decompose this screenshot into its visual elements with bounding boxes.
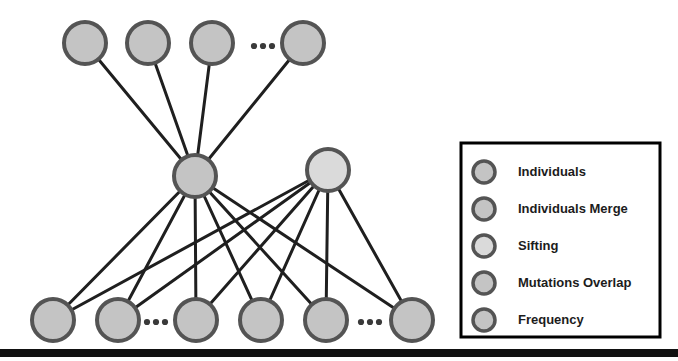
node-b4[interactable] [240, 299, 282, 341]
legend-label: Individuals [518, 164, 586, 179]
bottom-bar [0, 349, 678, 357]
ellipsis-dot-2 [269, 43, 275, 49]
legend-label: Individuals Merge [518, 201, 628, 216]
node-b1[interactable] [32, 299, 74, 341]
ellipsis-dot-1 [260, 43, 266, 49]
ellipsis-dot-0 [251, 43, 257, 49]
ellipsis-dot-2 [162, 319, 168, 325]
ellipsis-dot-0 [144, 319, 150, 325]
figure-canvas: IndividualsIndividuals MergeSiftingMutat… [0, 0, 678, 361]
node-b6[interactable] [391, 299, 433, 341]
ellipsis-dot-1 [367, 319, 373, 325]
legend-label: Sifting [518, 238, 558, 253]
edge-m2-b6 [328, 170, 412, 320]
bottom-bar-rule [0, 349, 678, 357]
node-b3[interactable] [175, 299, 217, 341]
ellipsis-2-1 [358, 319, 382, 325]
legend-marker-icon [473, 161, 495, 183]
legend-marker-icon [473, 198, 495, 220]
node-t1[interactable] [64, 22, 106, 64]
workflow-dag-figure: IndividualsIndividuals MergeSiftingMutat… [0, 0, 678, 361]
ellipsis-0-0 [251, 43, 275, 49]
ellipsis-dot-2 [376, 319, 382, 325]
node-m2[interactable] [307, 149, 349, 191]
legend-marker-icon [473, 309, 495, 331]
node-t3[interactable] [191, 22, 233, 64]
legend: IndividualsIndividuals MergeSiftingMutat… [461, 143, 660, 337]
legend-marker-icon [473, 272, 495, 294]
node-m1[interactable] [174, 155, 216, 197]
node-t4[interactable] [282, 22, 324, 64]
legend-label: Frequency [518, 312, 585, 327]
node-b5[interactable] [305, 299, 347, 341]
edges-layer [53, 43, 412, 320]
ellipsis-dot-0 [358, 319, 364, 325]
legend-marker-icon [473, 235, 495, 257]
ellipsis-dot-1 [153, 319, 159, 325]
ellipsis-2-0 [144, 319, 168, 325]
node-t2[interactable] [127, 22, 169, 64]
legend-label: Mutations Overlap [518, 275, 631, 290]
node-b2[interactable] [97, 299, 139, 341]
